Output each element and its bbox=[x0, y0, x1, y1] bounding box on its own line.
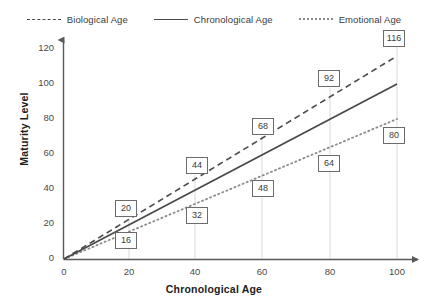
series-line-biological-age bbox=[64, 56, 397, 259]
data-label-emotional-100: 80 bbox=[383, 127, 405, 144]
y-tick-60: 60 bbox=[28, 147, 54, 158]
x-tick-60: 60 bbox=[247, 266, 277, 277]
data-label-biological-80: 92 bbox=[318, 70, 340, 87]
data-label-biological-20: 20 bbox=[115, 200, 137, 217]
data-label-emotional-60: 48 bbox=[252, 180, 274, 197]
y-axis-title: Maturity Level bbox=[18, 79, 30, 179]
data-label-biological-40: 44 bbox=[186, 157, 208, 174]
x-axis-title: Chronological Age bbox=[0, 283, 428, 295]
series-line-emotional-age bbox=[64, 119, 397, 259]
y-tick-0: 0 bbox=[28, 252, 54, 263]
plot-area bbox=[0, 0, 428, 303]
data-label-biological-100: 116 bbox=[383, 30, 405, 47]
leader-lines bbox=[129, 46, 397, 259]
x-tick-20: 20 bbox=[114, 266, 144, 277]
data-label-emotional-20: 16 bbox=[115, 232, 137, 249]
y-tick-120: 120 bbox=[28, 42, 54, 53]
y-tick-20: 20 bbox=[28, 217, 54, 228]
data-label-emotional-80: 64 bbox=[318, 155, 340, 172]
x-tick-100: 100 bbox=[382, 266, 412, 277]
x-tick-80: 80 bbox=[315, 266, 345, 277]
y-tick-40: 40 bbox=[28, 182, 54, 193]
chart-canvas: Biological Age Chronological Age Emotion… bbox=[0, 0, 428, 303]
x-tick-40: 40 bbox=[180, 266, 210, 277]
y-tick-80: 80 bbox=[28, 112, 54, 123]
data-label-biological-60: 68 bbox=[252, 118, 274, 135]
y-tick-100: 100 bbox=[28, 77, 54, 88]
x-tick-0: 0 bbox=[49, 266, 79, 277]
data-label-emotional-40: 32 bbox=[186, 207, 208, 224]
series-line-chronological-age bbox=[64, 84, 397, 259]
